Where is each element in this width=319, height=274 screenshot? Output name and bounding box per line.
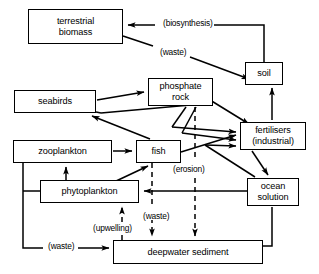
node-seabirds-label: seabirds bbox=[36, 96, 74, 107]
edge-terrestrial-biomass-to-soil bbox=[123, 36, 153, 46]
node-fertilisers-label: fertilisers (industrial) bbox=[250, 125, 296, 147]
node-ocean-solution: ocean solution bbox=[247, 178, 299, 206]
edge-into-fertilisers-b bbox=[182, 133, 236, 140]
node-soil-label: soil bbox=[255, 68, 272, 79]
node-deepwater-sediment-label: deepwater sediment bbox=[146, 247, 231, 258]
node-deepwater-sediment: deepwater sediment bbox=[113, 240, 263, 264]
edge-zooplankton-to-deepwater-sediment bbox=[23, 163, 43, 248]
node-fertilisers: fertilisers (industrial) bbox=[240, 122, 306, 150]
node-soil: soil bbox=[245, 62, 283, 85]
node-fish-label: fish bbox=[150, 146, 168, 157]
node-phosphate-rock-label: phosphate rock bbox=[157, 81, 203, 103]
node-fish: fish bbox=[136, 140, 181, 163]
edge-label-upwelling: (upwelling) bbox=[92, 224, 133, 232]
node-zooplankton-label: zooplankton bbox=[36, 146, 88, 157]
edge-fertilisers-to-ocean-solution bbox=[252, 151, 268, 175]
node-phytoplankton-label: phytoplankton bbox=[60, 186, 120, 197]
edge-deepwater-sediment-to-ocean-solution bbox=[263, 207, 272, 246]
edge-label-waste-fish: (waste) bbox=[142, 212, 170, 220]
edge-phosphate-rock-to-fertilisers bbox=[210, 100, 249, 124]
edge-label-erosion: (erosion) bbox=[172, 165, 206, 173]
edge-soil-to-terrestrial-biomass bbox=[214, 25, 264, 62]
edge-fish-to-seabirds bbox=[92, 116, 150, 139]
edge-fish-to-fertilisers bbox=[181, 135, 236, 152]
node-phytoplankton: phytoplankton bbox=[40, 180, 139, 203]
edge-phosphate-rock-branch-a bbox=[172, 107, 186, 127]
edge-label-biosynthesis: (biosynthesis) bbox=[162, 19, 214, 27]
edge-seabirds-to-phosphate-rock bbox=[97, 92, 144, 100]
node-terrestrial-biomass-label: terrestrial biomass bbox=[55, 16, 96, 38]
node-phosphate-rock: phosphate rock bbox=[148, 78, 213, 106]
edge-into-fertilisers-a bbox=[172, 127, 236, 132]
node-ocean-solution-label: ocean solution bbox=[256, 181, 291, 203]
node-terrestrial-biomass: terrestrial biomass bbox=[28, 9, 123, 44]
edge-label-waste-terrestrial: (waste) bbox=[159, 48, 187, 56]
node-zooplankton: zooplankton bbox=[13, 140, 112, 163]
phosphorus-cycle-diagram: terrestrial biomass soil phosphate rock … bbox=[0, 0, 319, 274]
edge-label-waste-zooplankton: (waste) bbox=[47, 242, 75, 250]
node-seabirds: seabirds bbox=[14, 90, 96, 113]
